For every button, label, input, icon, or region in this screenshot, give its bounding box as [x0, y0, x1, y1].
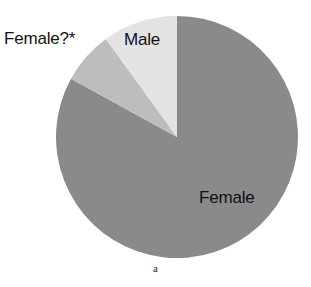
pie-chart-figure: Female?* Male Female a: [0, 0, 311, 287]
pie-slices: [56, 16, 298, 258]
figure-caption: a: [0, 262, 311, 274]
pie-label-female-questionable: Female?*: [4, 29, 75, 49]
pie-label-male: Male: [124, 30, 160, 50]
pie-label-female: Female: [199, 188, 255, 208]
